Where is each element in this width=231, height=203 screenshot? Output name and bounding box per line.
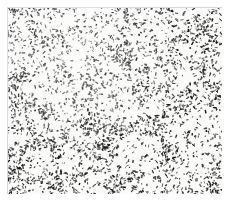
artwork-frame: Untitled (Speckled Field) <box>0 0 231 203</box>
artwork-caption: Untitled (Speckled Field) <box>0 0 1 1</box>
artwork-plate <box>7 7 222 194</box>
stipple-mark-field <box>7 7 222 194</box>
